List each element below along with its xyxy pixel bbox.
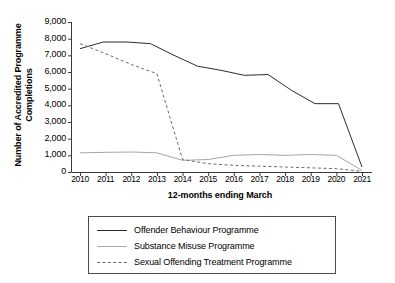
legend-item: Substance Misuse Programme [97,238,254,254]
legend-item: Offender Behaviour Programme [97,222,259,238]
solid-light-line-icon [97,241,127,251]
solid-dark-line-icon [97,225,127,235]
legend-item-label: Offender Behaviour Programme [134,225,259,235]
legend-item: Sexual Offending Treatment Programme [97,254,292,270]
y-axis-tick-label: 2,000 [28,134,66,143]
y-axis-tick-label: 6,000 [28,67,66,76]
y-axis-tick-label: 9,000 [28,17,66,26]
plot-area: 01,0002,0003,0004,0005,0006,0007,0008,00… [0,0,395,200]
y-axis-ticks [68,23,72,173]
chart-series-group [80,42,362,171]
y-axis-tick-label: 7,000 [28,50,66,59]
y-axis-tick-label: 1,000 [28,150,66,159]
legend-item-label: Substance Misuse Programme [134,241,254,251]
x-axis-tick-label: 2021 [345,175,379,184]
x-axis-title: 12-months ending March [60,190,380,200]
chart-series-line [80,152,362,170]
y-axis-tick-label: 8,000 [28,34,66,43]
y-axis-tick-label: 5,000 [28,84,66,93]
chart-legend: Offender Behaviour Programme Substance M… [88,216,336,274]
dashed-line-icon [97,257,127,267]
x-axis-tick-labels: 2010201120122013201420152016201720182019… [0,175,395,189]
chart-figure: Number of Accredited Programme Completio… [0,0,395,283]
legend-item-label: Sexual Offending Treatment Programme [134,257,292,267]
y-axis-tick-labels: 01,0002,0003,0004,0005,0006,0007,0008,00… [26,0,66,200]
y-axis-tick-label: 4,000 [28,100,66,109]
y-axis-tick-label: 3,000 [28,117,66,126]
